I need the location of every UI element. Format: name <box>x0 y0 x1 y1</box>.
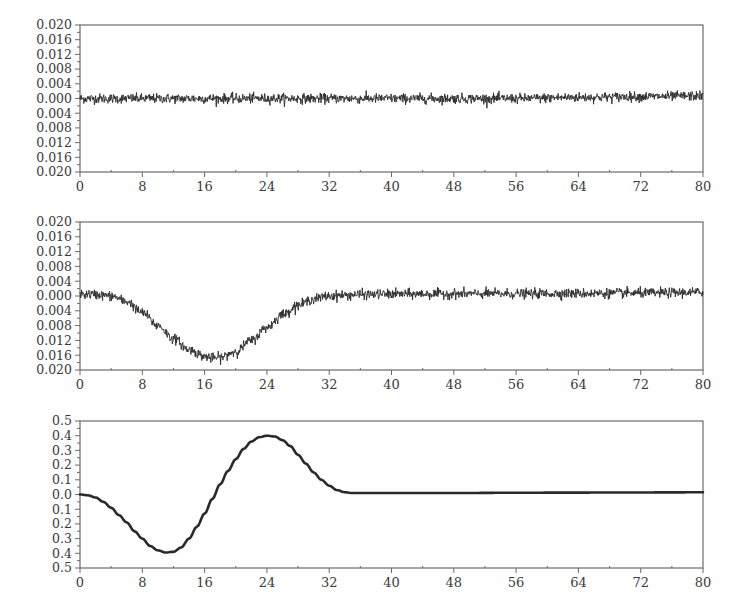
y-tick-label: 0.0 <box>52 487 72 502</box>
y-tick-label: 0.3 <box>52 531 72 546</box>
x-tick-label: 8 <box>138 377 146 392</box>
y-tick-label: 0.020 <box>36 164 72 179</box>
y-tick-label: 0.012 <box>36 244 72 259</box>
y-tick-label: 0.016 <box>36 150 72 165</box>
x-tick-label: 40 <box>383 377 400 392</box>
x-tick-label: 48 <box>446 179 463 194</box>
x-tick-label: 80 <box>695 377 712 392</box>
y-tick-label: 0.008 <box>36 259 72 274</box>
y-tick-label: 0.008 <box>36 120 72 135</box>
x-tick-label: 24 <box>259 575 276 590</box>
y-tick-label: 0.020 <box>36 214 72 229</box>
y-tick-label: 0.004 <box>36 76 72 91</box>
series-line <box>80 436 703 553</box>
x-tick-label: 32 <box>321 179 338 194</box>
x-tick-label: 32 <box>321 575 338 590</box>
series-line <box>80 286 703 365</box>
x-tick-label: 16 <box>196 179 213 194</box>
x-tick-label: 0 <box>76 377 84 392</box>
x-tick-label: 48 <box>446 377 463 392</box>
y-tick-label: 0.012 <box>36 333 72 348</box>
y-tick-label: 0.000 <box>36 91 72 106</box>
y-tick-label: 0.004 <box>36 106 72 121</box>
x-tick-label: 48 <box>446 575 463 590</box>
y-tick-label: 0.000 <box>36 288 72 303</box>
panel-top: 0.0200.0160.0120.0080.0040.0000.0040.008… <box>36 17 711 194</box>
x-tick-label: 80 <box>695 179 712 194</box>
x-tick-label: 32 <box>321 377 338 392</box>
y-tick-label: 0.3 <box>52 443 72 458</box>
y-tick-label: 0.004 <box>36 274 72 289</box>
y-tick-label: 0.008 <box>36 318 72 333</box>
figure-svg: 0.0200.0160.0120.0080.0040.0000.0040.008… <box>0 0 734 609</box>
figure: 0.0200.0160.0120.0080.0040.0000.0040.008… <box>0 0 734 609</box>
x-tick-label: 40 <box>383 179 400 194</box>
x-tick-label: 0 <box>76 179 84 194</box>
y-tick-label: 0.020 <box>36 362 72 377</box>
y-tick-label: 0.4 <box>52 546 72 561</box>
panel-middle: 0.0200.0160.0120.0080.0040.0000.0040.008… <box>36 214 711 392</box>
x-tick-label: 0 <box>76 575 84 590</box>
y-tick-label: 0.2 <box>52 457 72 472</box>
x-tick-label: 40 <box>383 575 400 590</box>
y-tick-label: 0.5 <box>52 413 72 428</box>
x-tick-label: 72 <box>632 179 649 194</box>
x-tick-label: 72 <box>632 377 649 392</box>
x-tick-label: 80 <box>695 575 712 590</box>
x-tick-label: 56 <box>508 377 525 392</box>
x-tick-label: 24 <box>259 377 276 392</box>
y-tick-label: 0.016 <box>36 32 72 47</box>
x-tick-label: 72 <box>632 575 649 590</box>
y-tick-label: 0.004 <box>36 303 72 318</box>
x-tick-label: 56 <box>508 179 525 194</box>
x-tick-label: 64 <box>570 575 587 590</box>
y-tick-label: 0.2 <box>52 516 72 531</box>
x-tick-label: 56 <box>508 575 525 590</box>
y-tick-label: 0.008 <box>36 61 72 76</box>
x-tick-label: 8 <box>138 179 146 194</box>
y-tick-label: 0.016 <box>36 229 72 244</box>
panel-bottom: 0.50.40.30.20.10.00.10.20.30.40.50816243… <box>52 413 711 590</box>
x-tick-label: 16 <box>196 575 213 590</box>
y-tick-label: 0.020 <box>36 17 72 32</box>
x-tick-label: 24 <box>259 179 276 194</box>
plot-frame <box>80 421 703 568</box>
x-tick-label: 64 <box>570 377 587 392</box>
y-tick-label: 0.1 <box>52 472 72 487</box>
y-tick-label: 0.012 <box>36 47 72 62</box>
x-tick-label: 8 <box>138 575 146 590</box>
y-tick-label: 0.1 <box>52 502 72 517</box>
y-tick-label: 0.016 <box>36 348 72 363</box>
x-tick-label: 16 <box>196 377 213 392</box>
y-tick-label: 0.012 <box>36 135 72 150</box>
x-tick-label: 64 <box>570 179 587 194</box>
y-tick-label: 0.4 <box>52 428 72 443</box>
series-line <box>80 90 703 108</box>
y-tick-label: 0.5 <box>52 560 72 575</box>
